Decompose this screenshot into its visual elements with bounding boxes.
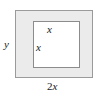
geometry-figure: y x x 2x [0,0,102,99]
height-label-y: y [4,39,9,50]
inner-square-top-label-x: x [47,24,52,35]
inner-square-left-label-x: x [36,42,41,53]
width-label-2x: 2x [47,81,57,92]
width-variable: x [53,80,58,92]
